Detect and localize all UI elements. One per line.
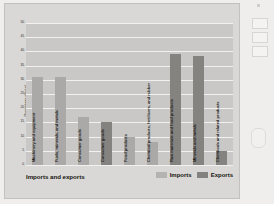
bar-slot: Consumer goods xyxy=(95,23,118,165)
y-axis-tick-label: 10 xyxy=(20,135,24,138)
y-axis-tick-label: 15 xyxy=(20,121,24,124)
bar-slot: Minerals and metals xyxy=(187,23,210,165)
y-axis-tick-label: 45 xyxy=(20,35,24,38)
bar-category-label: Machinery and equipment xyxy=(32,113,36,162)
ghost-box xyxy=(252,46,268,57)
y-axis-tick-label: 35 xyxy=(20,64,24,67)
bar-slot: Consumer goods xyxy=(72,23,95,165)
chart-footer: Imports and exports Imports Exports xyxy=(26,171,233,185)
legend-item-exports: Exports xyxy=(197,172,233,178)
bar-category-label: Consumer goods xyxy=(78,129,82,162)
y-axis-tick-label: 40 xyxy=(20,50,24,53)
x-axis-title: Imports and exports xyxy=(26,173,85,180)
ghost-box xyxy=(252,32,268,43)
page-background: Percentage of total 50454035302520151050… xyxy=(0,0,274,204)
y-axis-tick-label: 20 xyxy=(20,106,24,109)
bar-slot: Chemicals and related products xyxy=(210,23,233,165)
legend-swatch-exports xyxy=(197,172,208,178)
legend-item-imports: Imports xyxy=(156,172,192,178)
y-axis-tick-label: 5 xyxy=(22,149,24,152)
plot-area: 50454035302520151050 Machinery and equip… xyxy=(26,23,233,165)
bar-category-label: Consumer goods xyxy=(101,129,105,162)
chart-figure: Percentage of total 50454035302520151050… xyxy=(4,3,240,199)
right-margin-ui xyxy=(244,0,274,204)
bar-category-label: Minerals and metals xyxy=(193,124,197,162)
ghost-marker-icon xyxy=(257,4,260,7)
legend-label-imports: Imports xyxy=(170,172,192,178)
bar-category-label: Raw materials and food products xyxy=(170,99,174,162)
bar-slot: Machinery and equipment xyxy=(26,23,49,165)
y-axis-tick-label: 50 xyxy=(20,21,24,24)
bar-series: Machinery and equipmentFuels, minerals, … xyxy=(26,23,233,165)
bar-category-label: Fuels, minerals, and metals xyxy=(55,110,59,162)
y-axis-tick-label: 0 xyxy=(22,163,24,166)
bar-category-label: Chemicals and related products xyxy=(216,101,220,162)
y-axis-tick-label: 25 xyxy=(20,92,24,95)
bar-slot: Fuels, minerals, and metals xyxy=(49,23,72,165)
bar-slot: Chemical products, fertilisers, and rubb… xyxy=(141,23,164,165)
legend-swatch-imports xyxy=(156,172,167,178)
bar-slot: Raw materials and food products xyxy=(164,23,187,165)
bar-slot: Food products xyxy=(118,23,141,165)
bar-category-label: Chemical products, fertilisers, and rubb… xyxy=(147,83,151,162)
bar-category-label: Food products xyxy=(124,134,128,162)
ghost-rounded-box xyxy=(251,128,266,148)
gridline xyxy=(26,165,233,166)
y-axis-tick-label: 30 xyxy=(20,78,24,81)
legend-label-exports: Exports xyxy=(211,172,233,178)
ghost-box xyxy=(252,18,268,29)
legend: Imports Exports xyxy=(156,172,233,178)
